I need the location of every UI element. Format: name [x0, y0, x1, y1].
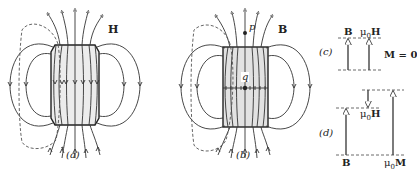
caption-d: (d)	[319, 128, 333, 138]
caption-c: (c)	[319, 47, 332, 57]
panel-a	[8, 10, 142, 158]
panel-d	[336, 90, 404, 155]
condition-M-zero: M = 0	[384, 50, 417, 60]
field-label-H: H	[108, 24, 118, 35]
vector-label-d-mu0H: μ0H	[360, 109, 380, 122]
point-p	[243, 31, 247, 35]
vector-label-c-mu0H: μ0H	[360, 27, 380, 40]
caption-b: (b)	[236, 150, 250, 160]
point-p-label: p	[249, 22, 255, 32]
field-label-B: B	[278, 24, 287, 35]
vector-label-c-B: B	[344, 27, 352, 37]
vector-label-d-B: B	[342, 158, 350, 168]
panel-c	[338, 38, 382, 70]
vector-label-d-mu0M: μ0M	[384, 158, 406, 171]
point-q	[243, 86, 247, 90]
panel-b	[179, 10, 312, 158]
point-q-label: q	[241, 72, 249, 82]
caption-a: (a)	[66, 150, 80, 160]
